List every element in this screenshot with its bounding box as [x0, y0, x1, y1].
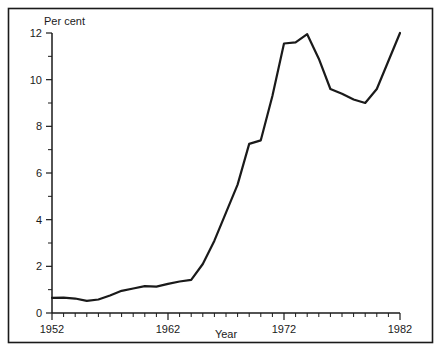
- y-tick-label: 6: [36, 167, 42, 179]
- figure-border: [9, 9, 433, 343]
- y-axis-title: Per cent: [44, 15, 85, 27]
- y-tick-label: 12: [30, 27, 42, 39]
- x-tick-label: 1962: [156, 323, 180, 335]
- x-axis-title: Year: [215, 328, 238, 340]
- y-tick-label: 0: [36, 307, 42, 319]
- y-tick-label: 4: [36, 214, 42, 226]
- chart-figure: 024681012 1952196219721982 Per cent Year: [0, 0, 441, 351]
- x-tick-label: 1982: [388, 323, 412, 335]
- y-tick-label: 10: [30, 74, 42, 86]
- y-tick-label: 8: [36, 120, 42, 132]
- x-tick-label: 1952: [40, 323, 64, 335]
- y-tick-label: 2: [36, 260, 42, 272]
- x-tick-label: 1972: [272, 323, 296, 335]
